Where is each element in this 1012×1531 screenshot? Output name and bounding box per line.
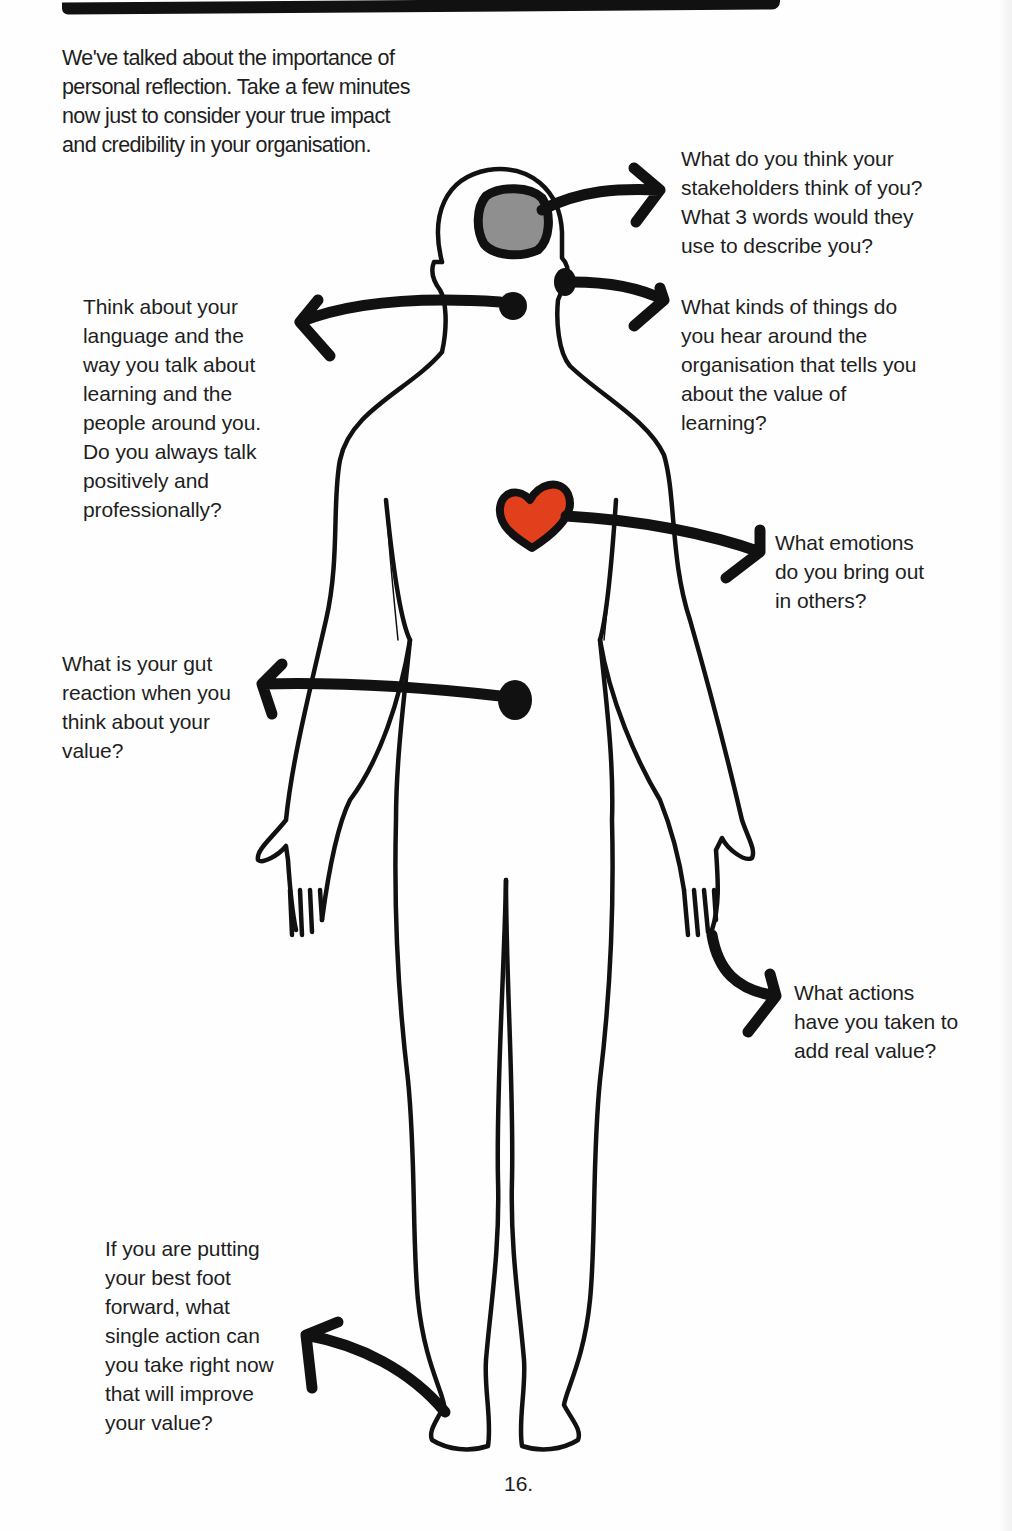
callout-line: way you talk about (83, 350, 261, 379)
callout-line: Do you always talk (83, 437, 261, 466)
intro-line: personal reflection. Take a few minutes (62, 73, 410, 102)
arrow-heart-to-emotions (566, 516, 760, 578)
callout-line: If you are putting (105, 1234, 274, 1263)
callout-line: learning and the (83, 379, 261, 408)
head-left (258, 262, 446, 930)
callout-line: value? (62, 736, 231, 765)
intro-line: now just to consider your true impact (62, 102, 410, 131)
callout-line: Think about your (83, 292, 261, 321)
callout-line: think about your (62, 707, 231, 736)
callout-line: in others? (775, 586, 924, 615)
callout-emotions: What emotions do you bring out in others… (775, 528, 924, 615)
callout-line: add real value? (794, 1036, 958, 1065)
callout-hear: What kinds of things do you hear around … (681, 292, 916, 437)
callout-line: you hear around the (681, 321, 916, 350)
callout-line: professionally? (83, 495, 261, 524)
callout-line: organisation that tells you (681, 350, 916, 379)
callout-line: positively and (83, 466, 261, 495)
callout-line: about the value of (681, 379, 916, 408)
callout-line: What kinds of things do (681, 292, 916, 321)
callout-best-foot: If you are putting your best foot forwar… (105, 1234, 274, 1437)
callout-line: language and the (83, 321, 261, 350)
brain-icon (478, 189, 548, 255)
callout-line: you take right now (105, 1350, 274, 1379)
callout-line: What do you think your (681, 144, 922, 173)
callout-line: stakeholders think of you? (681, 173, 922, 202)
left-torso-leg (395, 640, 506, 1449)
arrow-mouth-to-language (300, 300, 500, 356)
callout-line: that will improve (105, 1379, 274, 1408)
callout-actions: What actions have you taken to add real … (794, 978, 958, 1065)
callout-line: your value? (105, 1408, 274, 1437)
callout-line: forward, what (105, 1292, 274, 1321)
callout-gut-reaction: What is your gut reaction when you think… (62, 649, 231, 765)
callout-line: learning? (681, 408, 916, 437)
arrow-hand-to-actions (712, 935, 776, 1032)
callout-line: do you bring out (775, 557, 924, 586)
callout-line: reaction when you (62, 678, 231, 707)
workbook-page: We've talked about the importance of per… (0, 0, 1012, 1531)
heart-icon (500, 485, 570, 548)
callout-line: What is your gut (62, 649, 231, 678)
callout-line: people around you. (83, 408, 261, 437)
arrow-ear-to-hear (572, 282, 664, 326)
callout-line: single action can (105, 1321, 274, 1350)
right-torso-leg (506, 640, 613, 1449)
callout-line: have you taken to (794, 1007, 958, 1036)
callout-line: your best foot (105, 1263, 274, 1292)
intro-paragraph: We've talked about the importance of per… (62, 44, 410, 160)
callout-stakeholders: What do you think your stakeholders thin… (681, 144, 922, 260)
intro-line: We've talked about the importance of (62, 44, 410, 73)
callout-line: What actions (794, 978, 958, 1007)
callout-line: use to describe you? (681, 231, 922, 260)
intro-line: and credibility in your organisation. (62, 131, 410, 160)
arrow-gut-to-value (262, 664, 500, 714)
page-number: 16. (504, 1472, 533, 1496)
callout-language: Think about your language and the way yo… (83, 292, 261, 524)
callout-line: What 3 words would they (681, 202, 922, 231)
callout-line: What emotions (775, 528, 924, 557)
